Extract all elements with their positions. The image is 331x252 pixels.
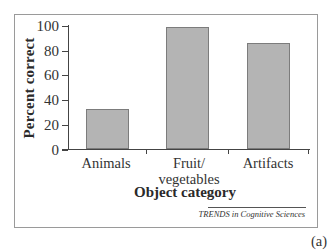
x-tick-label-line: Artifacts [243, 155, 294, 171]
x-tick-label-line: Animals [81, 155, 130, 171]
x-tick [146, 149, 147, 154]
journal-credit: TRENDS in Cognitive Sciences [199, 209, 305, 219]
bar-artifacts [247, 43, 290, 149]
bar-animals [86, 109, 129, 150]
y-axis-line [68, 25, 69, 150]
bar-fruit-vegetables [166, 27, 209, 149]
y-tick-label: 60 [44, 68, 59, 83]
y-tick [62, 125, 68, 126]
x-tick [308, 149, 309, 154]
panel-label: (a) [311, 233, 327, 250]
y-tick-label: 20 [44, 117, 59, 132]
x-tick-label-line: Fruit/ [158, 155, 219, 171]
y-tick [62, 51, 68, 52]
y-axis-label: Percent correct [21, 37, 38, 138]
credit-rule [208, 207, 306, 208]
y-tick [62, 26, 68, 27]
y-tick-label: 100 [37, 19, 60, 34]
x-tick [228, 149, 229, 154]
y-tick [62, 75, 68, 76]
y-tick [62, 100, 68, 101]
y-tick-label: 40 [44, 93, 59, 108]
x-axis-label: Object category [134, 184, 236, 201]
y-tick-label: 0 [52, 142, 60, 157]
x-tick-label: Animals [81, 155, 130, 171]
x-tick-label: Fruit/vegetables [158, 155, 219, 187]
y-tick [62, 150, 68, 151]
y-tick-label: 80 [44, 43, 59, 58]
x-tick-label: Artifacts [243, 155, 294, 171]
